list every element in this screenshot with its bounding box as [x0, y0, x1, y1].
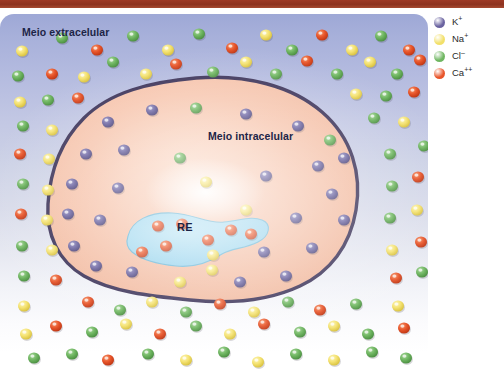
extracellular-ions: [12, 28, 428, 368]
ion-cl: [114, 304, 126, 315]
ion-cl: [270, 68, 282, 79]
cell-ion-distribution-figure: Meio extracelular Meio intracelular RE K…: [0, 0, 504, 374]
ion-cl: [400, 352, 412, 363]
reticulum-ions: [136, 218, 258, 261]
legend-label-potassium: K+: [452, 17, 462, 27]
ion-ca: [245, 228, 257, 239]
ion-cl: [86, 326, 98, 337]
intracellular-ions: [62, 102, 351, 288]
ion-ca: [154, 328, 166, 339]
ion-na: [20, 328, 32, 339]
ion-k: [280, 270, 292, 281]
ion-na: [42, 184, 54, 195]
ion-cl: [391, 68, 403, 79]
ion-ca: [170, 58, 182, 69]
ion-k: [312, 160, 324, 171]
ion-cl: [180, 306, 192, 317]
ion-ca: [258, 318, 270, 329]
intracellular-label: Meio intracelular: [208, 130, 293, 142]
ion-na: [146, 296, 158, 307]
ion-k: [326, 188, 338, 199]
ion-cl: [380, 90, 392, 101]
ion-na: [200, 176, 212, 187]
ion-cl: [331, 68, 343, 79]
ion-cl: [127, 30, 139, 41]
ion-k: [66, 178, 78, 189]
ion-ca: [225, 224, 237, 235]
ion-cl: [18, 270, 30, 281]
ion-particles-layer: [0, 14, 428, 374]
ion-k: [292, 120, 304, 131]
ion-cl: [350, 298, 362, 309]
ion-k: [112, 182, 124, 193]
ion-na: [364, 56, 376, 67]
ion-cl: [324, 134, 336, 145]
ion-ca: [398, 322, 410, 333]
ion-cl: [294, 326, 306, 337]
ion-na: [240, 56, 252, 67]
ion-k: [94, 214, 106, 225]
ion-na: [78, 71, 90, 82]
ion-cl: [368, 112, 380, 123]
ion-na: [350, 88, 362, 99]
ion-ca: [301, 55, 313, 66]
ion-legend: K+ Na+ Cl– Ca++: [434, 14, 500, 82]
ion-cl: [290, 348, 302, 359]
ion-ca: [316, 29, 328, 40]
ion-na: [46, 124, 58, 135]
ion-cl: [16, 240, 28, 251]
ion-cl: [28, 352, 40, 363]
ion-ca: [390, 272, 402, 283]
ion-k: [290, 212, 302, 223]
ion-cl: [17, 178, 29, 189]
ion-na: [411, 204, 423, 215]
ion-ca: [14, 148, 26, 159]
ion-k: [118, 144, 130, 155]
legend-label-sodium: Na+: [452, 34, 468, 44]
ion-k: [258, 246, 270, 257]
ion-na: [224, 328, 236, 339]
ion-ca: [414, 54, 426, 65]
extracellular-label: Meio extracelular: [22, 26, 110, 38]
legend-label-calcium: Ca++: [452, 68, 472, 78]
legend-item-calcium: Ca++: [434, 65, 500, 81]
ion-na: [14, 96, 26, 107]
ion-na: [120, 318, 132, 329]
ion-cl: [384, 212, 396, 223]
ion-cl: [384, 148, 396, 159]
ion-ca: [91, 44, 103, 55]
ion-ca: [15, 208, 27, 219]
ion-k: [338, 152, 350, 163]
ion-k: [234, 276, 246, 287]
calcium-swatch-icon: [434, 68, 445, 79]
ion-cl: [375, 30, 387, 41]
ion-cl: [282, 296, 294, 307]
ion-na: [240, 204, 252, 215]
reticulum-label: RE: [177, 221, 193, 233]
ion-na: [174, 276, 186, 287]
ion-cl: [190, 102, 202, 113]
ion-na: [43, 153, 55, 164]
ion-na: [162, 44, 174, 55]
ion-ca: [160, 240, 172, 251]
potassium-swatch-icon: [434, 17, 445, 28]
sodium-swatch-icon: [434, 34, 445, 45]
ion-ca: [412, 171, 424, 182]
ion-ca: [152, 220, 164, 231]
ion-cl: [12, 70, 24, 81]
ion-na: [41, 214, 53, 225]
top-rule-divider: [0, 0, 504, 8]
ion-k: [80, 148, 92, 159]
ion-ca: [202, 234, 214, 245]
ion-k: [68, 240, 80, 251]
ion-ca: [136, 246, 148, 257]
ion-ca: [226, 42, 238, 53]
ion-cl: [142, 348, 154, 359]
ion-ca: [408, 86, 420, 97]
ion-k: [260, 170, 272, 181]
ion-na: [398, 116, 410, 127]
ion-na: [392, 300, 404, 311]
legend-label-chloride: Cl–: [452, 51, 465, 61]
ion-cl: [42, 94, 54, 105]
ion-cl: [174, 152, 186, 163]
